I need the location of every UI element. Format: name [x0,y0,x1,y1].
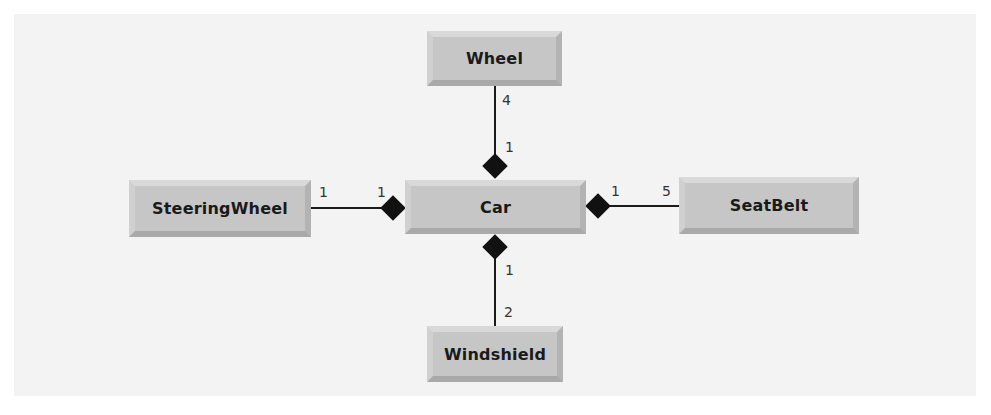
multiplicity-steeringwheel-whole: 1 [377,185,386,199]
class-wheel[interactable]: Wheel [427,31,562,86]
multiplicity-seatbelt-part: 5 [662,184,671,198]
connector-car-seatbelt [608,205,679,207]
multiplicity-wheel-part: 4 [502,93,511,107]
class-seat-belt[interactable]: SeatBelt [679,177,859,234]
class-name: Car [480,198,511,217]
connector-car-windshield [494,258,496,326]
multiplicity-seatbelt-whole: 1 [611,184,620,198]
class-name: SeatBelt [730,196,809,215]
multiplicity-windshield-part: 2 [504,305,513,319]
multiplicity-wheel-whole: 1 [505,140,514,154]
class-name: Wheel [466,49,523,68]
connector-steeringwheel-car [311,207,383,209]
class-steering-wheel[interactable]: SteeringWheel [129,180,311,237]
multiplicity-steeringwheel-part: 1 [319,185,328,199]
connector-wheel-car [494,86,496,156]
multiplicity-windshield-whole: 1 [505,263,514,277]
class-name: SteeringWheel [152,199,288,218]
class-windshield[interactable]: Windshield [427,326,563,382]
class-car[interactable]: Car [405,180,586,234]
class-name: Windshield [444,345,546,364]
